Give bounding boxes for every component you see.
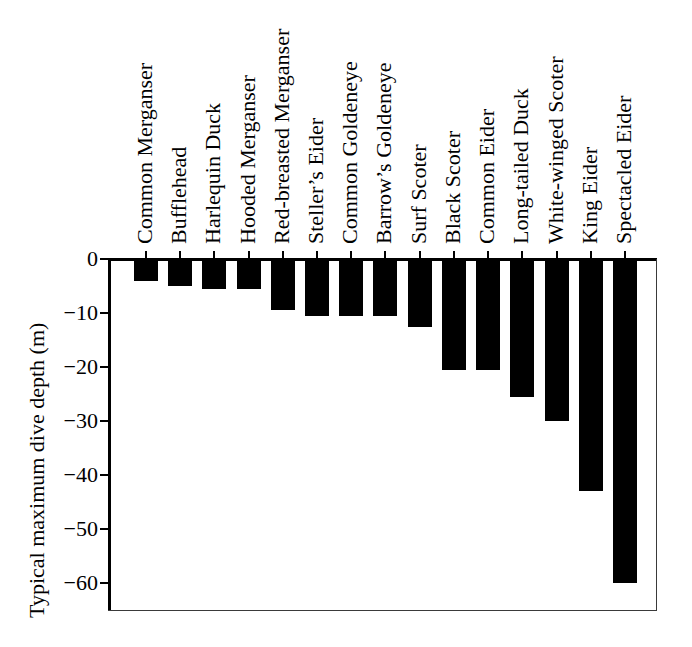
category-tick: [590, 251, 592, 259]
y-axis-tick: [100, 420, 108, 422]
bar-white-winged-scoter: [545, 260, 569, 421]
y-axis-tick-label: −60: [30, 571, 98, 595]
bar-spectacled-eider: [613, 260, 637, 583]
bar-barrow-s-goldeneye: [373, 260, 397, 316]
y-axis-tick-label: −20: [30, 355, 98, 379]
y-axis-tick: [100, 528, 108, 530]
category-label-steller-s-eider: Steller’s Eider: [304, 118, 328, 244]
category-tick: [350, 251, 352, 259]
y-axis-tick: [100, 474, 108, 476]
bar-bufflehead: [168, 260, 192, 286]
category-label-harlequin-duck: Harlequin Duck: [201, 103, 225, 244]
category-label-black-scoter: Black Scoter: [441, 131, 465, 244]
category-tick: [453, 251, 455, 259]
bar-steller-s-eider: [305, 260, 329, 316]
bar-red-breasted-merganser: [271, 260, 295, 310]
plot-border-bottom: [108, 610, 657, 611]
dive-depth-figure: Typical maximum dive depth (m) 0−10−20−3…: [0, 0, 692, 647]
category-tick: [624, 251, 626, 259]
category-tick: [179, 251, 181, 259]
bar-surf-scoter: [408, 260, 432, 327]
y-axis-tick: [100, 366, 108, 368]
y-axis-tick: [100, 312, 108, 314]
plot-border-right: [656, 259, 657, 611]
category-tick: [316, 251, 318, 259]
category-tick: [419, 251, 421, 259]
y-axis-tick-label: −50: [30, 517, 98, 541]
category-label-hooded-merganser: Hooded Merganser: [236, 75, 260, 244]
y-axis-tick-label: 0: [30, 247, 98, 271]
category-label-common-merganser: Common Merganser: [133, 63, 157, 244]
category-label-red-breasted-merganser: Red-breasted Merganser: [270, 29, 294, 244]
category-label-king-eider: King Eider: [578, 147, 602, 244]
category-label-spectacled-eider: Spectacled Eider: [612, 96, 636, 244]
category-tick: [384, 251, 386, 259]
plot-area: 0−10−20−30−40−50−60Common MerganserBuffl…: [0, 0, 692, 647]
category-tick: [282, 251, 284, 259]
bar-common-merganser: [134, 260, 158, 281]
category-label-barrow-s-goldeneye: Barrow’s Goldeneye: [372, 63, 396, 244]
bar-harlequin-duck: [202, 260, 226, 289]
category-label-surf-scoter: Surf Scoter: [407, 144, 431, 244]
category-label-long-tailed-duck: Long-tailed Duck: [509, 88, 533, 244]
bar-king-eider: [579, 260, 603, 491]
bar-hooded-merganser: [237, 260, 261, 289]
bar-common-eider: [476, 260, 500, 370]
y-axis-tick: [100, 582, 108, 584]
y-axis-tick: [100, 258, 108, 260]
y-axis-tick-label: −10: [30, 301, 98, 325]
category-tick: [213, 251, 215, 259]
category-label-white-winged-scoter: White-winged Scoter: [544, 56, 568, 244]
category-label-common-goldeneye: Common Goldeneye: [338, 61, 362, 244]
bar-black-scoter: [442, 260, 466, 370]
category-tick: [487, 251, 489, 259]
bar-long-tailed-duck: [510, 260, 534, 397]
category-tick: [521, 251, 523, 259]
bar-common-goldeneye: [339, 260, 363, 316]
y-axis-tick-label: −40: [30, 463, 98, 487]
category-tick: [556, 251, 558, 259]
y-axis-line: [108, 258, 111, 611]
category-tick: [145, 251, 147, 259]
category-tick: [248, 251, 250, 259]
category-label-bufflehead: Bufflehead: [167, 147, 191, 244]
category-label-common-eider: Common Eider: [475, 109, 499, 244]
y-axis-tick-label: −30: [30, 409, 98, 433]
